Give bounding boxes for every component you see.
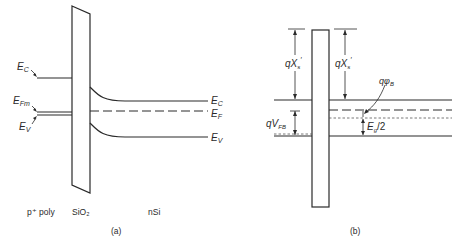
substrate-ec-curve bbox=[90, 87, 208, 101]
ev-arrowhead-icon bbox=[33, 116, 37, 120]
panel-a: EC EFm EV EC EF EV p⁺ poly SiO₂ nSi (a) bbox=[13, 6, 224, 236]
label-vfb: qVFB bbox=[266, 118, 286, 130]
arrow-up-icon bbox=[343, 30, 347, 35]
label-substrate-ev: EV bbox=[211, 132, 224, 144]
arrow-down-icon bbox=[343, 94, 347, 99]
arrow-up-icon bbox=[361, 119, 365, 123]
label-substrate-ec: EC bbox=[211, 95, 224, 107]
caption-a: (a) bbox=[111, 226, 122, 236]
oxide-slab-a bbox=[72, 6, 90, 193]
arrow-up-icon bbox=[293, 30, 297, 35]
label-gate-efm: EFm bbox=[13, 95, 30, 107]
label-eg-half: Eg/2 bbox=[367, 121, 386, 133]
phi-b-leader bbox=[366, 85, 385, 112]
efm-arrowhead-icon bbox=[33, 108, 37, 112]
panel-b: qXs′ qXs′ qVFB qφB Eg/2 (b) bbox=[266, 29, 452, 236]
arrow-up-icon bbox=[293, 111, 297, 116]
oxide-slab-b bbox=[312, 30, 329, 207]
label-gate-ec: EC bbox=[17, 61, 30, 73]
caption-b: (b) bbox=[350, 226, 361, 236]
region-label-gate: p⁺ poly bbox=[27, 207, 55, 217]
label-phi-b: qφB bbox=[379, 76, 394, 87]
ec-arrowhead-icon bbox=[33, 73, 37, 77]
region-label-oxide: SiO₂ bbox=[72, 207, 89, 217]
label-substrate-ef: EF bbox=[211, 108, 223, 120]
arrow-down-icon bbox=[361, 131, 365, 135]
band-diagram-figure: EC EFm EV EC EF EV p⁺ poly SiO₂ nSi (a) bbox=[0, 0, 459, 247]
label-gate-ev: EV bbox=[19, 121, 32, 133]
arrow-down-icon bbox=[293, 94, 297, 99]
region-label-substrate: nSi bbox=[148, 207, 160, 217]
substrate-ev-curve bbox=[90, 123, 208, 137]
